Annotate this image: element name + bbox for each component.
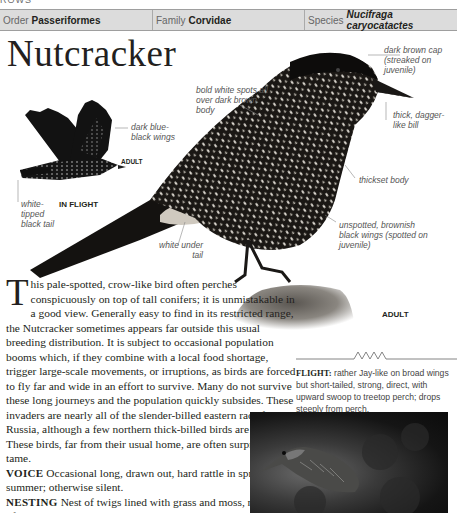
annotation-brown-cap: dark brown cap (streaked on juvenile) bbox=[384, 45, 456, 75]
taxonomy-order: Order Passeriformes bbox=[0, 10, 153, 30]
flight-label: FLIGHT: bbox=[296, 368, 332, 378]
order-value: Passeriformes bbox=[32, 15, 101, 26]
tag-perched-adult: ADULT bbox=[382, 310, 409, 319]
order-label: Order bbox=[3, 15, 29, 26]
page-title: Nutcracker bbox=[7, 32, 176, 75]
annotation-white-under-tail: white under tail bbox=[155, 240, 203, 260]
taxonomy-family: Family Corvidae bbox=[153, 10, 305, 30]
photo-bird-silhouette bbox=[250, 412, 448, 513]
nesting-label: NESTING bbox=[6, 496, 58, 508]
voice-text: Occasional long, drawn out, hard rattle … bbox=[6, 467, 286, 494]
annotation-white-tipped-tail: white-tipped black tail bbox=[21, 199, 61, 229]
taxonomy-species: Species Nucifraga caryocatactes bbox=[305, 10, 457, 30]
taxonomy-bar: Order Passeriformes Family Corvidae Spec… bbox=[0, 9, 457, 31]
species-value: Nucifraga caryocatactes bbox=[347, 9, 457, 31]
nutcracker-photo bbox=[250, 412, 448, 513]
drop-cap: T bbox=[6, 279, 29, 307]
voice-label: VOICE bbox=[6, 467, 43, 479]
flight-description: FLIGHT: rather Jay-like on broad wings b… bbox=[296, 367, 457, 415]
annotation-blue-black-wings: dark blue-black wings bbox=[131, 122, 186, 142]
family-label: Family bbox=[156, 15, 185, 26]
running-head: ROWS bbox=[0, 0, 32, 5]
tag-in-flight: IN FLIGHT bbox=[59, 200, 98, 209]
annotation-unspotted-wings: unspotted, brownish black wings (spotted… bbox=[339, 220, 434, 250]
annotation-dagger-bill: thick, dagger-like bill bbox=[393, 110, 453, 130]
species-label: Species bbox=[308, 15, 344, 26]
annotation-white-spots: bold white spots all over dark brown bod… bbox=[196, 85, 276, 115]
annotation-thickset-body: thickset body bbox=[359, 175, 449, 185]
flight-pattern-icon bbox=[296, 349, 457, 361]
tag-flight-adult: ADULT bbox=[121, 158, 143, 165]
family-value: Corvidae bbox=[188, 15, 231, 26]
